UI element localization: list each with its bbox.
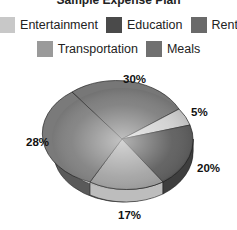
label-education: 20% [197, 162, 220, 174]
label-entertainment: 5% [191, 106, 208, 118]
label-transportation: 17% [118, 209, 141, 221]
label-meals: 30% [123, 73, 146, 85]
label-rent: 28% [26, 136, 49, 148]
